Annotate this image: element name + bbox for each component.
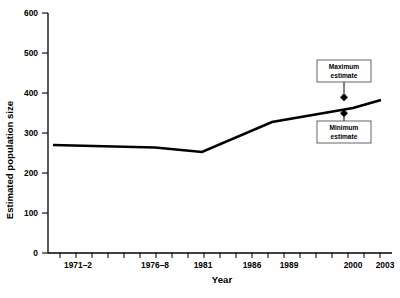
y-tick-label-400: 400 <box>24 88 38 98</box>
x-axis-title: Year <box>212 274 233 285</box>
line-chart-svg: Estimated population size 600 500 400 30… <box>0 0 400 298</box>
y-tick-label-100: 100 <box>24 208 38 218</box>
maximum-estimate-callout: Maximum estimate <box>317 60 371 93</box>
x-tick-label-2000: 2000 <box>344 260 363 270</box>
y-tick-label-600: 600 <box>24 8 38 18</box>
maximum-estimate-marker <box>340 94 347 102</box>
maximum-estimate-callout-line1: Maximum <box>329 63 360 70</box>
minimum-estimate-callout: Minimum estimate <box>317 117 371 143</box>
y-tick-label-0: 0 <box>33 248 38 258</box>
x-axis-tick-labels: 1971–2 1976–8 1981 1986 1989 2000 2003 <box>64 260 395 270</box>
x-tick-label-1976-8: 1976–8 <box>141 260 169 270</box>
y-axis-title: Estimated population size <box>4 101 15 219</box>
x-tick-label-1971-2: 1971–2 <box>64 260 92 270</box>
estimate-markers <box>340 94 347 118</box>
minimum-estimate-callout-line2: estimate <box>331 133 358 140</box>
maximum-estimate-callout-line2: estimate <box>331 72 358 79</box>
x-tick-label-1989: 1989 <box>280 260 299 270</box>
y-tick-label-200: 200 <box>24 168 38 178</box>
y-tick-label-300: 300 <box>24 128 38 138</box>
chart-figure: Estimated population size 600 500 400 30… <box>0 0 400 298</box>
x-tick-label-2003: 2003 <box>376 260 395 270</box>
y-axis-ticks <box>42 13 48 253</box>
x-axis-ticks <box>60 253 380 258</box>
x-tick-label-1986: 1986 <box>243 260 262 270</box>
x-tick-label-1981: 1981 <box>194 260 213 270</box>
y-axis-tick-labels: 600 500 400 300 200 100 0 <box>24 8 38 258</box>
y-tick-label-500: 500 <box>24 48 38 58</box>
minimum-estimate-callout-line1: Minimum <box>330 124 359 131</box>
